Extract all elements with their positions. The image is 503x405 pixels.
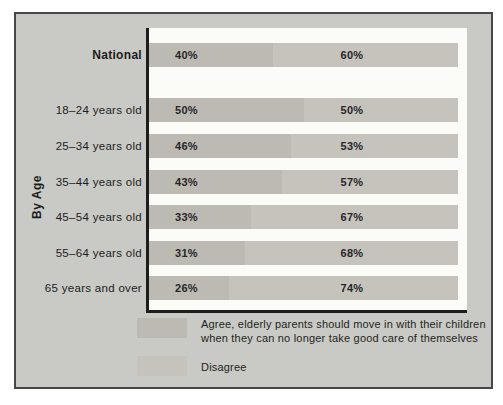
legend-swatch-disagree: [137, 356, 187, 376]
disagree-value-label: 68%: [341, 241, 364, 265]
agree-value-label: 31%: [175, 241, 198, 265]
disagree-value-label: 53%: [341, 134, 364, 158]
category-label-18-24: 18–24 years old: [18, 98, 142, 122]
bar-row-65-over: 26% 74%: [149, 276, 458, 300]
agree-value-label: 43%: [175, 170, 198, 194]
agree-segment: [149, 43, 273, 67]
agree-value-label: 26%: [175, 276, 198, 300]
agree-segment: [149, 205, 251, 229]
bar-row-55-64: 31% 68%: [149, 241, 458, 265]
agree-value-label: 46%: [175, 134, 198, 158]
bar-row-35-44: 43% 57%: [149, 170, 458, 194]
bar-row-national: 40% 60%: [149, 43, 458, 67]
disagree-value-label: 74%: [341, 276, 364, 300]
disagree-value-label: 50%: [341, 98, 364, 122]
disagree-value-label: 67%: [341, 205, 364, 229]
category-label-25-34: 25–34 years old: [18, 134, 142, 158]
disagree-value-label: 57%: [341, 170, 364, 194]
category-label-55-64: 55–64 years old: [18, 241, 142, 265]
agree-segment: [149, 98, 304, 122]
category-label-65-over: 65 years and over: [18, 276, 142, 300]
agree-value-label: 50%: [175, 98, 198, 122]
legend-label-agree: Agree, elderly parents should move in wi…: [201, 317, 489, 345]
survey-chart-figure: National 18–24 years old 25–34 years old…: [0, 0, 503, 405]
agree-segment: [149, 134, 291, 158]
bar-row-18-24: 50% 50%: [149, 98, 458, 122]
bar-row-45-54: 33% 67%: [149, 205, 458, 229]
legend-label-disagree: Disagree: [201, 360, 489, 374]
disagree-value-label: 60%: [341, 43, 364, 67]
legend-swatch-agree: [137, 318, 187, 338]
agree-segment: [149, 170, 282, 194]
group-axis-label: By Age: [30, 175, 44, 219]
agree-value-label: 40%: [175, 43, 198, 67]
category-label-national: National: [18, 43, 142, 67]
bar-row-25-34: 46% 53%: [149, 134, 458, 158]
agree-value-label: 33%: [175, 205, 198, 229]
